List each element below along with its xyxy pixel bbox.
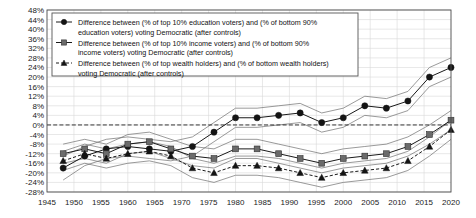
y-axis-tick-label: 48% xyxy=(28,6,44,15)
x-axis-tick-label: 1990 xyxy=(281,198,299,207)
legend-label-circle: Difference between (% of top 10% educati… xyxy=(78,18,318,27)
data-point-income xyxy=(190,153,196,159)
data-point-income xyxy=(254,146,260,152)
data-point-education xyxy=(383,105,389,111)
y-axis-tick-label: 36% xyxy=(28,35,44,44)
x-axis-tick-label: 1945 xyxy=(38,198,56,207)
data-point-education xyxy=(254,115,260,121)
y-axis-tick-label: 28% xyxy=(28,54,44,63)
y-axis-tick-labels: -28%-24%-20%-16%-12%-8%-4%0%4%8%12%16%20… xyxy=(25,6,44,197)
y-axis-tick-label: 16% xyxy=(28,83,44,92)
x-axis-tick-label: 1950 xyxy=(65,198,83,207)
y-axis-tick-label: -8% xyxy=(30,140,44,149)
x-axis-tick-label: 2015 xyxy=(415,198,433,207)
y-axis-tick-label: 4% xyxy=(32,111,44,120)
data-point-income xyxy=(125,141,131,147)
y-axis-tick-label: -28% xyxy=(25,188,44,197)
legend-label-circle: education voters) voting Democratic (aft… xyxy=(78,28,241,37)
y-axis-tick-label: -12% xyxy=(25,150,44,159)
data-point-income xyxy=(319,160,325,166)
legend-label-square: income voters) voting Democratic (after … xyxy=(78,48,233,57)
data-point-education xyxy=(60,165,66,171)
chart-container: -28%-24%-20%-16%-12%-8%-4%0%4%8%12%16%20… xyxy=(0,0,476,218)
y-axis-tick-label: -20% xyxy=(25,169,44,178)
y-axis-tick-label: 40% xyxy=(28,25,44,34)
data-point-income xyxy=(340,156,346,162)
x-axis-tick-label: 1960 xyxy=(119,198,137,207)
y-axis-tick-label: 12% xyxy=(28,92,44,101)
y-axis-tick-label: 8% xyxy=(32,102,44,111)
data-point-income xyxy=(211,156,217,162)
x-axis-tick-label: 1985 xyxy=(254,198,272,207)
x-axis-tick-label: 2005 xyxy=(361,198,379,207)
data-point-education xyxy=(426,74,432,80)
difference-in-democratic-vote-line-chart: -28%-24%-20%-16%-12%-8%-4%0%4%8%12%16%20… xyxy=(0,0,476,218)
x-axis-tick-label: 1995 xyxy=(307,198,325,207)
y-axis-tick-label: -16% xyxy=(25,159,44,168)
x-axis-tick-label: 1980 xyxy=(227,198,245,207)
y-axis-tick-label: 44% xyxy=(28,16,44,25)
data-point-education xyxy=(211,129,217,135)
data-point-education xyxy=(232,115,238,121)
data-point-income xyxy=(383,151,389,157)
data-point-income xyxy=(168,146,174,152)
legend-marker-square xyxy=(61,40,66,45)
data-point-income xyxy=(60,151,66,157)
x-axis-tick-label: 1955 xyxy=(92,198,110,207)
data-point-education xyxy=(297,110,303,116)
x-axis-tick-label: 2000 xyxy=(334,198,352,207)
y-axis-tick-label: 0% xyxy=(32,121,44,130)
data-point-education xyxy=(319,119,325,125)
y-axis-tick-label: 24% xyxy=(28,63,44,72)
data-point-income xyxy=(297,156,303,162)
data-point-education xyxy=(362,103,368,109)
data-point-income xyxy=(146,139,152,145)
x-axis-tick-label: 2020 xyxy=(442,198,460,207)
legend-label-square: Difference between (% of top 10% income … xyxy=(78,39,310,48)
data-point-income xyxy=(427,132,433,138)
data-point-income xyxy=(405,144,411,150)
data-point-income xyxy=(362,153,368,159)
y-axis-tick-label: 20% xyxy=(28,73,44,82)
data-point-income xyxy=(233,146,239,152)
data-point-education xyxy=(189,143,195,149)
y-axis-tick-label: -24% xyxy=(25,178,44,187)
x-axis-tick-label: 1970 xyxy=(173,198,191,207)
y-axis-tick-label: -4% xyxy=(30,131,44,140)
data-point-education xyxy=(276,112,282,118)
legend-label-triangle: voting Democratic (after controls) xyxy=(78,69,184,78)
x-axis-tick-label: 1965 xyxy=(146,198,164,207)
chart-legend: Difference between (% of top 10% educati… xyxy=(52,13,358,78)
data-point-education xyxy=(405,98,411,104)
data-point-education xyxy=(340,115,346,121)
legend-label-triangle: Difference between (% of top wealth hold… xyxy=(78,59,329,68)
x-axis-tick-label: 1975 xyxy=(200,198,218,207)
data-point-income xyxy=(276,151,282,157)
x-axis-tick-label: 2010 xyxy=(388,198,406,207)
x-axis-tick-labels: 1945195019551960196519701975198019851990… xyxy=(38,198,460,207)
y-axis-tick-label: 32% xyxy=(28,44,44,53)
legend-marker-circle xyxy=(61,19,66,24)
